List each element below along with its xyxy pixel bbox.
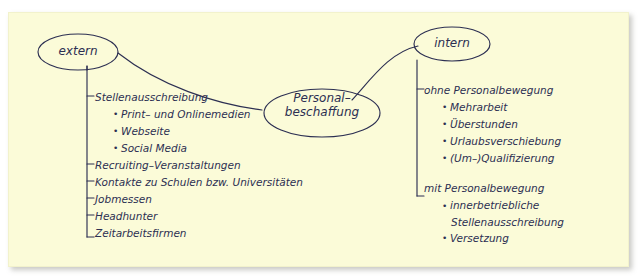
bullet-icon: • [442, 234, 450, 243]
list-item: • Social Media [95, 140, 305, 157]
list-item: Headhunter [95, 208, 305, 225]
bullet-icon: • [442, 137, 450, 146]
item-label: Headhunter [95, 211, 157, 222]
bullet-icon: • [442, 120, 450, 129]
item-label: Recruiting–Veranstaltungen [95, 160, 241, 171]
item-label: mit Personalbewegung [424, 183, 544, 194]
item-label: (Um–)Qualifizierung [450, 153, 555, 164]
item-label: Social Media [121, 143, 187, 154]
item-label: Stellenausschreibung [95, 92, 208, 103]
list-item: • (Um–)Qualifizierung [424, 150, 614, 167]
list-item: Recruiting–Veranstaltungen [95, 157, 305, 174]
item-label: Jobmessen [95, 194, 152, 205]
group-heading: mit Personalbewegung [424, 180, 614, 197]
item-label: ohne Personalbewegung [424, 85, 553, 96]
item-label: Webseite [121, 126, 170, 137]
item-label: Mehrarbeit [450, 102, 507, 113]
list-item: Zeitarbeitsfirmen [95, 225, 305, 242]
item-label: Überstunden [450, 119, 518, 130]
node-label-intern: intern [414, 36, 490, 50]
item-label: Print– und Onlinemedien [121, 109, 251, 120]
item-label: Versetzung [450, 233, 509, 244]
list-item: Kontakte zu Schulen bzw. Universitäten [95, 174, 305, 191]
list-item: Jobmessen [95, 191, 305, 208]
bullet-icon: • [442, 154, 450, 163]
list-item: • Webseite [95, 123, 305, 140]
branch-list-intern: ohne Personalbewegung • Mehrarbeit • Übe… [424, 82, 614, 247]
list-item: • Versetzung [424, 230, 614, 247]
list-item: •innerbetriebliche Stellenausschreibung [424, 197, 614, 230]
branch-list-extern: Stellenausschreibung • Print– und Online… [95, 89, 305, 242]
node-label-extern: extern [40, 44, 116, 58]
list-item: • Mehrarbeit [424, 99, 614, 116]
bullet-icon: • [113, 110, 121, 119]
group-spacer [424, 167, 614, 180]
item-label: Urlaubsverschiebung [450, 136, 561, 147]
item-label: innerbetriebliche Stellenausschreibung [450, 199, 564, 228]
group-heading: ohne Personalbewegung [424, 82, 614, 99]
list-item: • Überstunden [424, 116, 614, 133]
bullet-icon: • [113, 127, 121, 136]
item-label: Kontakte zu Schulen bzw. Universitäten [95, 177, 303, 188]
list-item: • Urlaubsverschiebung [424, 133, 614, 150]
item-label: Zeitarbeitsfirmen [95, 228, 187, 239]
diagram-canvas: extern intern Personal– beschaffung Stel… [0, 0, 641, 280]
list-item: • Print– und Onlinemedien [95, 106, 305, 123]
bullet-icon: • [442, 200, 450, 214]
bullet-icon: • [113, 144, 121, 153]
list-item: Stellenausschreibung [95, 89, 305, 106]
bullet-icon: • [442, 103, 450, 112]
